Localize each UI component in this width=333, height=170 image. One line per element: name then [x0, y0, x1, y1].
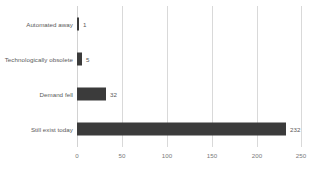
bar-value-label: 5: [86, 56, 89, 63]
category-label: Still exist today: [31, 126, 73, 133]
bar-value-label: 232: [290, 126, 300, 133]
bar: [77, 123, 286, 136]
x-tick-label-100: 100: [162, 152, 172, 159]
x-tick-label-0: 0: [75, 152, 78, 159]
category-label: Automated away: [26, 21, 73, 28]
x-axis: 0 50 100 150 200 250: [0, 147, 333, 167]
bar-row: Demand fell 32: [77, 77, 302, 111]
x-tick-label-50: 50: [119, 152, 126, 159]
x-tick-label-150: 150: [207, 152, 217, 159]
plot-area: Automated away 1 Technologically obsolet…: [77, 6, 302, 147]
bar-row: Technologically obsolete 5: [77, 42, 302, 76]
x-tick-label-200: 200: [252, 152, 262, 159]
bar-rows: Automated away 1 Technologically obsolet…: [77, 6, 302, 147]
bar: [77, 53, 82, 66]
category-label: Technologically obsolete: [5, 56, 73, 63]
bar-chart: Automated away 1 Technologically obsolet…: [0, 0, 333, 170]
category-label: Demand fell: [39, 91, 73, 98]
bar-row: Automated away 1: [77, 7, 302, 41]
bar-value-label: 32: [110, 91, 117, 98]
bar-value-label: 1: [83, 21, 86, 28]
bar-row: Still exist today 232: [77, 112, 302, 146]
bar: [77, 88, 106, 101]
bar: [77, 18, 79, 31]
x-tick-label-250: 250: [296, 152, 306, 159]
